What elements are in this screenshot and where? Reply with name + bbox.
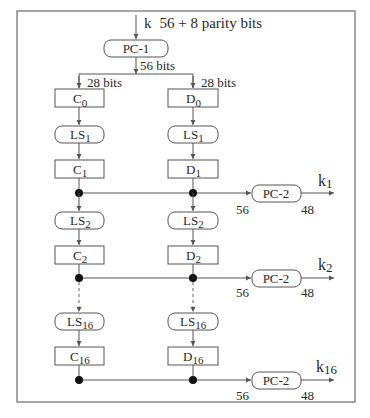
pc2-in-bits-2: 56 <box>236 285 250 300</box>
pc1-out-bits: 56 bits <box>140 58 175 73</box>
junction-dot <box>75 274 83 282</box>
pc1-label: PC-1 <box>123 41 150 56</box>
pc2-label-2: PC-2 <box>263 271 290 286</box>
split-left-bits: 28 bits <box>87 75 122 90</box>
pc2-in-bits-16: 56 <box>236 388 250 403</box>
pc2-label-1: PC-2 <box>263 186 290 201</box>
pc2-out-bits-16: 48 <box>301 388 314 403</box>
split-right-bits: 28 bits <box>201 75 236 90</box>
pc2-out-bits-2: 48 <box>301 285 314 300</box>
input-key-label: k56 + 8 parity bits <box>144 15 262 31</box>
subkey-k16: k16 <box>316 358 338 377</box>
pc2-label-16: PC-2 <box>263 373 290 388</box>
junction-dot <box>189 274 197 282</box>
pc2-in-bits-1: 56 <box>236 202 250 217</box>
junction-dot <box>189 376 197 384</box>
pc2-out-bits-1: 48 <box>301 202 314 217</box>
subkey-k1: k1 <box>318 172 333 191</box>
des-key-schedule-diagram: k56 + 8 parity bits PC-1 56 bits 28 bits… <box>0 0 370 418</box>
subkey-k2: k2 <box>318 256 333 275</box>
junction-dot <box>75 376 83 384</box>
